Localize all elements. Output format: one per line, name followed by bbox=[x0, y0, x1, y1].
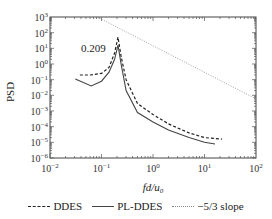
tick-label: 10−1 bbox=[93, 162, 111, 174]
tick-label: 10−3 bbox=[31, 105, 49, 117]
legend-item-pl-ddes: PL-DDES bbox=[92, 200, 162, 212]
y-tick-labels: 10310210110010−110−210−310−410−510−6 bbox=[31, 11, 49, 164]
tick-label: 10−1 bbox=[31, 74, 49, 86]
tick-label: 10−5 bbox=[31, 136, 49, 148]
tick-label: 10−2 bbox=[31, 89, 49, 101]
chart-legend: DDES PL-DDES −5/3 slope bbox=[0, 198, 272, 214]
pl-ddes-series-line bbox=[75, 45, 215, 144]
slope-line bbox=[97, 17, 256, 99]
legend-item-slope: −5/3 slope bbox=[172, 200, 243, 212]
x-axis-title: fd/u0 bbox=[143, 181, 164, 195]
legend-label-slope: −5/3 slope bbox=[197, 200, 243, 212]
solid-line-swatch bbox=[92, 206, 114, 207]
tick-label: 10−2 bbox=[41, 162, 59, 174]
tick-label: 102 bbox=[35, 27, 49, 39]
legend-item-ddes: DDES bbox=[28, 200, 82, 212]
tick-label: 103 bbox=[35, 11, 49, 23]
axis-ticks bbox=[50, 17, 256, 158]
legend-label-ddes: DDES bbox=[53, 200, 82, 212]
tick-label: 10−4 bbox=[31, 121, 49, 133]
tick-label: 101 bbox=[35, 42, 49, 54]
tick-label: 101 bbox=[198, 162, 212, 174]
dashed-line-swatch bbox=[28, 206, 50, 207]
plot-frame bbox=[50, 17, 256, 158]
tick-label: 100 bbox=[35, 58, 49, 70]
legend-label-pl-ddes: PL-DDES bbox=[117, 200, 162, 212]
dotted-line-swatch bbox=[172, 206, 194, 207]
tick-label: 100 bbox=[146, 162, 160, 174]
x-tick-labels: 10−210−1100101102 bbox=[41, 162, 263, 174]
peak-frequency-label: 0.209 bbox=[81, 42, 106, 54]
tick-label: 102 bbox=[249, 162, 263, 174]
psd-chart: 10310210110010−110−210−310−410−510−6 10−… bbox=[0, 0, 272, 219]
y-axis-title: PSD bbox=[4, 82, 16, 102]
